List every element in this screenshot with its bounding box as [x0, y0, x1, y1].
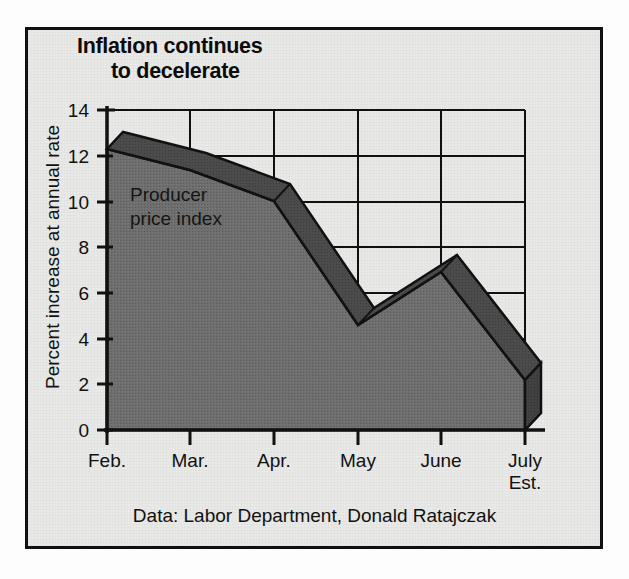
y-tick-label-10: 10: [43, 192, 89, 214]
series-annotation-line2: price index: [130, 207, 222, 231]
x-tick-label-may: May: [310, 450, 406, 472]
y-tick-label-4: 4: [43, 329, 89, 351]
x-tick-label-july: July Est.: [477, 450, 573, 494]
chart-title-line2: to decelerate: [77, 59, 377, 84]
y-tick-label-6: 6: [43, 283, 89, 305]
series-annotation-line1: Producer: [130, 183, 222, 207]
series-annotation: Producer price index: [130, 183, 222, 231]
x-tick-marks: [107, 430, 525, 445]
x-tick-label-july-main: July: [508, 450, 542, 471]
x-tick-label-apr: Apr.: [226, 450, 322, 472]
x-tick-label-july-sub: Est.: [477, 472, 573, 494]
chart-title-line1: Inflation continues: [77, 34, 262, 58]
source-caption: Data: Labor Department, Donald Ratajczak: [0, 505, 629, 527]
y-tick-label-2: 2: [43, 374, 89, 396]
x-tick-label-june: June: [393, 450, 489, 472]
y-tick-label-8: 8: [43, 237, 89, 259]
y-tick-label-12: 12: [43, 146, 89, 168]
series-producer-price-index: [107, 132, 541, 430]
chart-title: Inflation continues to decelerate: [77, 34, 377, 84]
x-tick-label-mar: Mar.: [142, 450, 238, 472]
y-tick-label-0: 0: [43, 420, 89, 442]
y-tick-label-14: 14: [43, 100, 89, 122]
x-tick-label-feb: Feb.: [59, 450, 155, 472]
chart-page: Inflation continues to decelerate Percen…: [0, 0, 629, 579]
